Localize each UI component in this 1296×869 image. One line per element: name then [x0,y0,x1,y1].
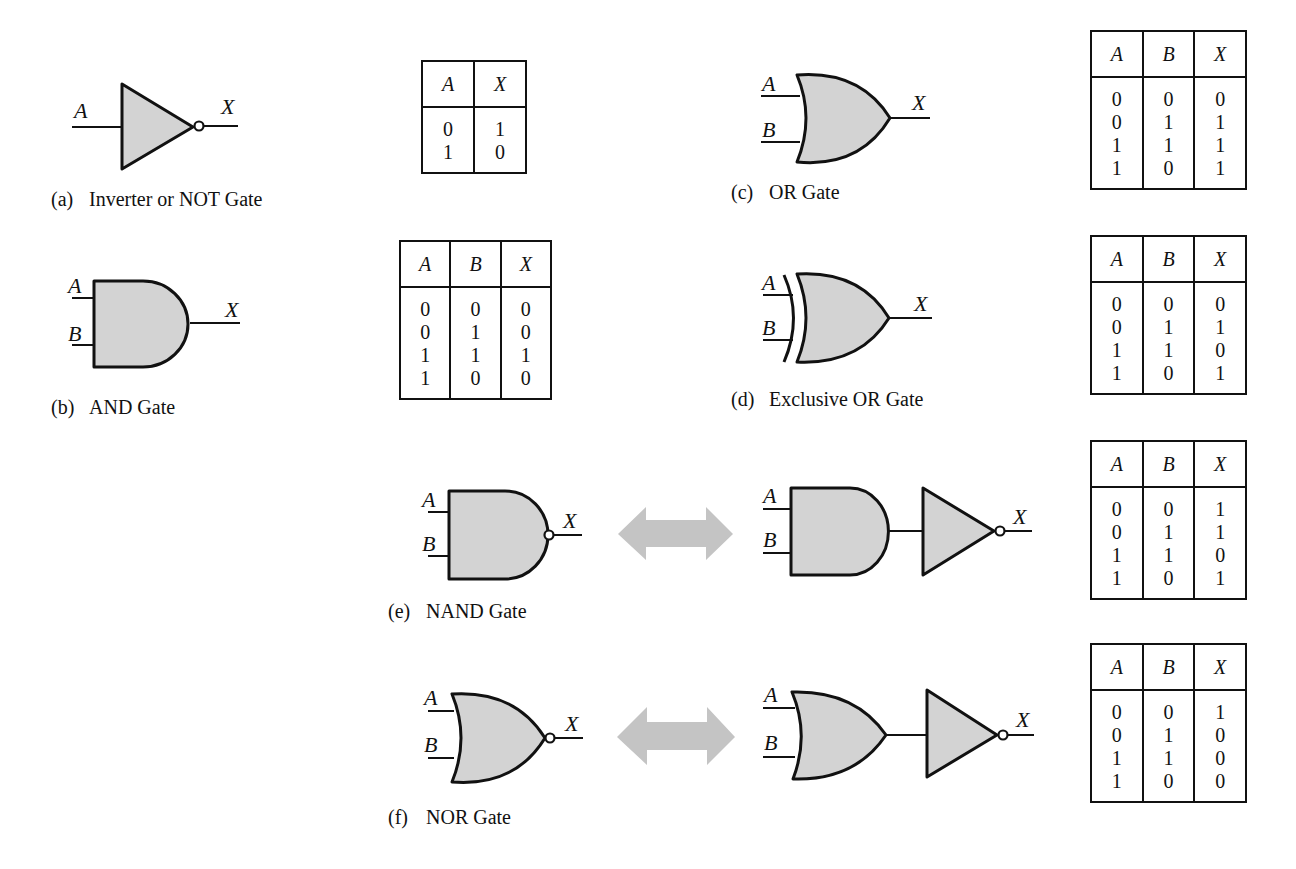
cell: 0 [1091,282,1143,316]
caption-text: OR Gate [769,181,840,203]
cell: 1 [450,321,500,344]
cell: 1 [1194,134,1246,157]
caption-text: NAND Gate [426,600,527,622]
caption-text: Exclusive OR Gate [769,388,923,410]
output-x-label: X [1012,504,1028,529]
cell: 0 [1143,770,1195,802]
nand-gate-symbol: A B X [420,487,582,579]
input-b-label: B [424,732,437,757]
cell: 1 [1143,724,1195,747]
header-x: X [1194,236,1246,282]
cell: 1 [1143,339,1195,362]
cell: 1 [1143,544,1195,567]
input-a-label: A [761,483,777,508]
caption-tag: (f) [388,806,426,829]
cell: 1 [1194,362,1246,394]
cell: 1 [1194,111,1246,134]
output-x-label: X [564,711,580,736]
cell: 0 [1194,339,1246,362]
truth-table-nor: ABX 001 010 110 100 [1090,643,1247,803]
cell: 0 [1194,544,1246,567]
cell: 1 [1143,111,1195,134]
nand-equivalent-circuit: A B X [761,483,1032,575]
header-x: X [1194,441,1246,487]
output-x-label: X [1015,707,1031,732]
caption-nor-gate: (f)NOR Gate [388,806,511,829]
output-x-label: X [911,90,927,115]
cell: 1 [400,344,450,367]
cell: 0 [1194,770,1246,802]
input-b-label: B [762,117,775,142]
or-gate-symbol: A B X [760,71,930,163]
caption-or-gate: (c)OR Gate [731,181,840,204]
cell: 0 [1143,487,1195,521]
caption-tag: (e) [388,600,426,623]
input-b-label: B [422,531,435,556]
cell: 0 [450,367,500,399]
cell: 1 [1091,567,1143,599]
cell: 0 [1091,487,1143,521]
input-b-label: B [763,527,776,552]
header-a: A [1091,644,1143,690]
caption-tag: (b) [51,396,89,419]
input-a-label: A [762,682,778,707]
input-a-label: A [66,273,82,298]
cell: 0 [400,321,450,344]
cell: 0 [1194,77,1246,111]
caption-tag: (d) [731,388,769,411]
cell: 0 [450,287,500,321]
truth-table-nand: ABX 001 011 110 101 [1090,440,1247,600]
truth-table-and: ABX 000 010 111 100 [399,240,552,400]
equivalence-arrow-icon [618,507,733,560]
not-gate-symbol: A X [72,84,238,169]
caption-xor-gate: (d)Exclusive OR Gate [731,388,923,411]
nor-equivalent-circuit: A B X [762,682,1034,779]
cell: 1 [422,141,474,173]
output-x-label: X [224,297,240,322]
header-a: A [1091,441,1143,487]
cell: 1 [1143,747,1195,770]
caption-and-gate: (b)AND Gate [51,396,175,419]
header-a: A [422,61,474,107]
truth-table-not: AX 01 10 [421,60,527,174]
cell: 1 [1194,487,1246,521]
header-b: B [1143,441,1195,487]
input-a-label: A [72,98,88,123]
cell: 0 [1194,747,1246,770]
cell: 1 [1091,747,1143,770]
header-b: B [1143,644,1195,690]
cell: 0 [1091,111,1143,134]
header-a: A [400,241,450,287]
cell: 0 [501,367,551,399]
cell: 1 [1194,521,1246,544]
cell: 0 [1194,724,1246,747]
cell: 0 [1143,282,1195,316]
caption-text: Inverter or NOT Gate [89,188,262,210]
cell: 1 [1143,316,1195,339]
cell: 1 [1194,690,1246,724]
input-a-label: A [420,487,436,512]
cell: 0 [1091,690,1143,724]
cell: 0 [474,141,526,173]
cell: 0 [1143,690,1195,724]
cell: 0 [501,321,551,344]
caption-not-gate: (a)Inverter or NOT Gate [51,188,262,211]
header-b: B [1143,236,1195,282]
cell: 1 [1091,770,1143,802]
output-x-label: X [220,94,236,119]
truth-table-or: ABX 000 011 111 101 [1090,30,1247,190]
cell: 1 [1143,521,1195,544]
input-a-label: A [760,270,776,295]
cell: 0 [1143,567,1195,599]
cell: 1 [501,344,551,367]
header-a: A [1091,31,1143,77]
caption-nand-gate: (e)NAND Gate [388,600,527,623]
cell: 0 [1143,157,1195,189]
nor-gate-symbol: A B X [422,685,583,782]
xor-gate-symbol: A B X [760,270,932,362]
cell: 1 [1091,157,1143,189]
cell: 1 [1091,134,1143,157]
caption-text: AND Gate [89,396,175,418]
cell: 0 [1091,77,1143,111]
equivalence-arrow-icon [617,707,735,765]
